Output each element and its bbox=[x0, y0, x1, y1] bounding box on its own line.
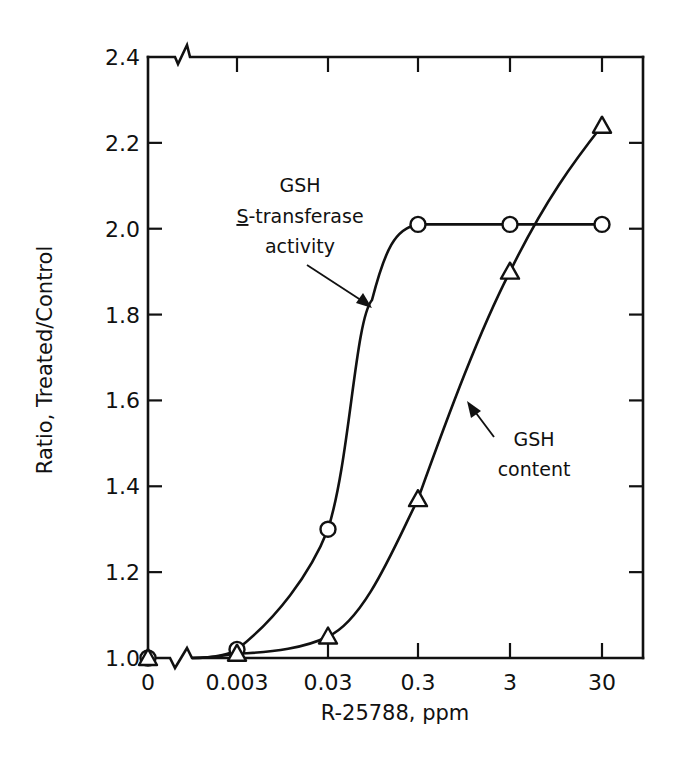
x-axis-ticks bbox=[237, 57, 602, 658]
circle-marker-icon bbox=[503, 217, 518, 232]
annotation-line-2: S-transferase bbox=[236, 205, 363, 227]
x-tick-label: 30 bbox=[588, 670, 616, 695]
chart: 1.01.21.41.61.82.02.22.4 00.0030.030.333… bbox=[0, 0, 685, 767]
annotation-line-2: content bbox=[498, 458, 571, 480]
triangle-marker-icon bbox=[501, 263, 519, 279]
annotation-line-2-rest: -transferase bbox=[248, 205, 363, 227]
x-axis-tick-labels: 00.0030.030.3330 bbox=[141, 670, 616, 695]
y-tick-label: 1.4 bbox=[105, 474, 140, 499]
y-tick-label: 1.6 bbox=[105, 388, 140, 413]
x-tick-label: 0.03 bbox=[304, 670, 353, 695]
annotation-line-1: GSH bbox=[513, 428, 554, 450]
triangle-marker-icon bbox=[409, 490, 427, 506]
circle-marker-icon bbox=[411, 217, 426, 232]
annotation-gsh-content: GSH content bbox=[467, 401, 570, 480]
circle-marker-icon bbox=[321, 522, 336, 537]
circle-marker-icon bbox=[595, 217, 610, 232]
x-tick-label: 0 bbox=[141, 670, 155, 695]
y-tick-label: 2.4 bbox=[105, 45, 140, 70]
y-axis-title: Ratio, Treated/Control bbox=[33, 246, 57, 474]
y-tick-label: 1.2 bbox=[105, 560, 140, 585]
annotation-line-3: activity bbox=[265, 235, 335, 257]
y-tick-label: 2.0 bbox=[105, 217, 140, 242]
y-axis-tick-labels: 1.01.21.41.61.82.02.22.4 bbox=[105, 45, 140, 671]
x-tick-label: 0.3 bbox=[401, 670, 436, 695]
triangle-marker-icon bbox=[319, 628, 337, 644]
annotation-gsh-s-transferase-activity: GSH S-transferase activity bbox=[236, 174, 372, 308]
underlined-s: S bbox=[236, 205, 248, 227]
triangle-marker-icon bbox=[593, 117, 611, 133]
annotation-line-1: GSH bbox=[279, 174, 320, 196]
y-tick-label: 1.8 bbox=[105, 303, 140, 328]
arrowhead-icon bbox=[356, 293, 372, 308]
x-tick-label: 3 bbox=[503, 670, 517, 695]
x-axis-title: R-25788, ppm bbox=[321, 701, 470, 725]
plot-frame bbox=[148, 45, 643, 668]
y-tick-label: 2.2 bbox=[105, 131, 140, 156]
y-tick-label: 1.0 bbox=[105, 646, 140, 671]
y-axis-ticks bbox=[148, 143, 643, 572]
x-tick-label: 0.003 bbox=[206, 670, 269, 695]
